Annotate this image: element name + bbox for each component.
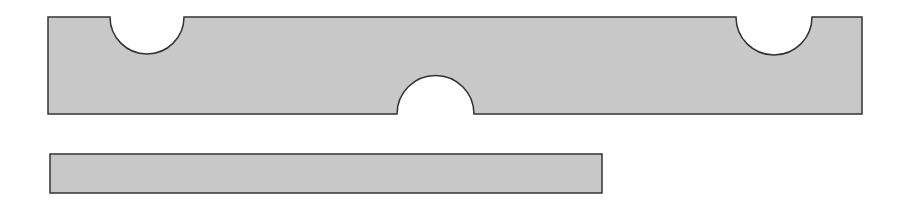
diagram-canvas [0,0,905,211]
notched-bar [48,17,862,114]
plain-bar [50,154,602,193]
